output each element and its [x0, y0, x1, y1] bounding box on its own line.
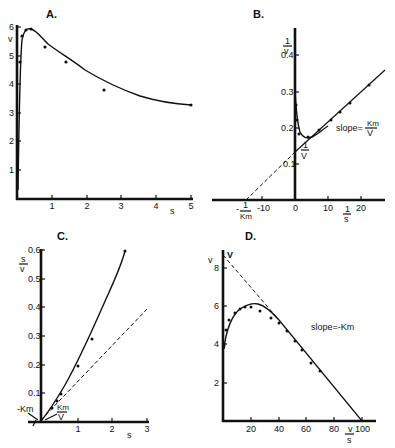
- panel-b-intercept-label: 1 V: [301, 140, 309, 161]
- svg-text:Km: Km: [367, 119, 379, 128]
- svg-text:2: 2: [110, 424, 115, 434]
- svg-text:3: 3: [119, 201, 124, 211]
- svg-text:v: v: [348, 424, 353, 434]
- panel-a-y-label: v: [8, 34, 13, 44]
- svg-text:100: 100: [355, 424, 370, 434]
- panel-a-curve: [18, 29, 191, 190]
- panel-a: A. v s 1 2 3 4 5 1 2 3 4 5 6: [8, 8, 194, 216]
- svg-text:1: 1: [285, 36, 290, 46]
- svg-text:0.2: 0.2: [28, 360, 41, 370]
- svg-text:6: 6: [9, 22, 14, 32]
- svg-text:0.3: 0.3: [28, 331, 41, 341]
- panel-c-points: [51, 250, 127, 410]
- panel-d-extrapolation-line: [223, 255, 279, 320]
- svg-text:4: 4: [214, 339, 219, 349]
- svg-text:1: 1: [76, 424, 81, 434]
- svg-text:2: 2: [85, 201, 90, 211]
- svg-text:0: 0: [293, 203, 298, 213]
- svg-text:slope=: slope=: [336, 123, 363, 133]
- svg-text:Km: Km: [57, 403, 69, 412]
- svg-text:1: 1: [345, 204, 350, 214]
- svg-text:2: 2: [9, 136, 14, 146]
- svg-text:3: 3: [9, 108, 14, 118]
- panel-b-curve: [295, 90, 328, 138]
- panel-b-x-label: 1 s: [343, 204, 351, 224]
- svg-text:-10: -10: [257, 203, 270, 213]
- svg-text:-: -: [236, 204, 239, 214]
- svg-text:0.6: 0.6: [28, 245, 41, 255]
- svg-text:4: 4: [9, 79, 14, 89]
- panel-b-slope-label: slope= Km V: [336, 119, 379, 138]
- svg-text:V: V: [58, 412, 64, 422]
- panel-d-points: [223, 306, 322, 373]
- svg-text:5: 5: [9, 51, 14, 61]
- panel-b: B. 1 v 0.4 0.3 0.2 0.1 -10 0 10 20 1 s -…: [212, 8, 385, 224]
- svg-text:0.1: 0.1: [283, 159, 296, 169]
- panel-b-title: B.: [253, 8, 264, 20]
- panel-a-x-label: s: [170, 206, 175, 216]
- panel-c-y-ticks: 0.6 0.5 0.4 0.3 0.2 0.1: [28, 245, 45, 398]
- svg-text:1: 1: [50, 201, 55, 211]
- kinetics-figure: A. v s 1 2 3 4 5 1 2 3 4 5 6: [0, 0, 395, 448]
- svg-text:s: s: [344, 214, 349, 224]
- svg-text:2: 2: [214, 378, 219, 388]
- svg-text:0.3: 0.3: [281, 87, 294, 97]
- panel-a-title: A.: [46, 8, 57, 20]
- panel-c-intercept-label: Km V: [45, 403, 69, 422]
- panel-c: C. s v 0.6 0.5 0.4 0.3 0.2 0.1 1 2 3 s: [17, 230, 150, 440]
- svg-text:4: 4: [154, 201, 159, 211]
- svg-text:V: V: [301, 151, 307, 161]
- svg-text:0.2: 0.2: [281, 123, 294, 133]
- svg-text:3: 3: [145, 424, 150, 434]
- svg-text:20: 20: [356, 203, 366, 213]
- svg-text:8: 8: [214, 263, 219, 273]
- svg-text:V: V: [367, 128, 373, 138]
- panel-d-slope-label: slope=-Km: [311, 322, 354, 332]
- svg-text:10: 10: [323, 203, 333, 213]
- svg-text:60: 60: [301, 424, 311, 434]
- panel-b-km-label: - 1 Km: [236, 200, 252, 221]
- svg-text:0.5: 0.5: [28, 274, 41, 284]
- panel-a-points: [18, 27, 192, 106]
- panel-d-title: D.: [245, 230, 256, 242]
- svg-text:6: 6: [214, 301, 219, 311]
- panel-c-curve: [41, 251, 125, 421]
- panel-d-y-label: v: [208, 255, 213, 265]
- svg-text:40: 40: [274, 424, 284, 434]
- svg-text:0.4: 0.4: [281, 50, 294, 60]
- svg-text:20: 20: [246, 424, 256, 434]
- svg-text:s: s: [21, 254, 26, 264]
- panel-d-x-label: v s: [345, 424, 354, 445]
- svg-text:1: 1: [243, 200, 248, 210]
- panel-d: D. v V 8 6 4 2 20 40 60 80 100 v s: [208, 230, 376, 445]
- panel-d-vmax-label: V: [227, 250, 233, 260]
- svg-text:1: 1: [303, 140, 308, 150]
- svg-text:80: 80: [329, 424, 339, 434]
- svg-text:1: 1: [9, 165, 14, 175]
- panel-c-title: C.: [57, 230, 68, 242]
- svg-text:s: s: [347, 435, 352, 445]
- panel-c-y-label: s v: [19, 254, 28, 274]
- svg-text:5: 5: [189, 201, 194, 211]
- svg-text:0.1: 0.1: [28, 388, 41, 398]
- svg-text:v: v: [20, 264, 25, 274]
- panel-c-km-annotation: -Km: [17, 404, 38, 426]
- panel-c-x-label: s: [127, 430, 132, 440]
- svg-text:Km: Km: [240, 212, 252, 221]
- svg-text:-Km: -Km: [17, 404, 34, 414]
- panel-c-x-ticks: 1 2 3: [76, 418, 150, 434]
- svg-text:0.4: 0.4: [28, 302, 41, 312]
- panel-d-y-ticks: 8 6 4 2: [214, 263, 227, 388]
